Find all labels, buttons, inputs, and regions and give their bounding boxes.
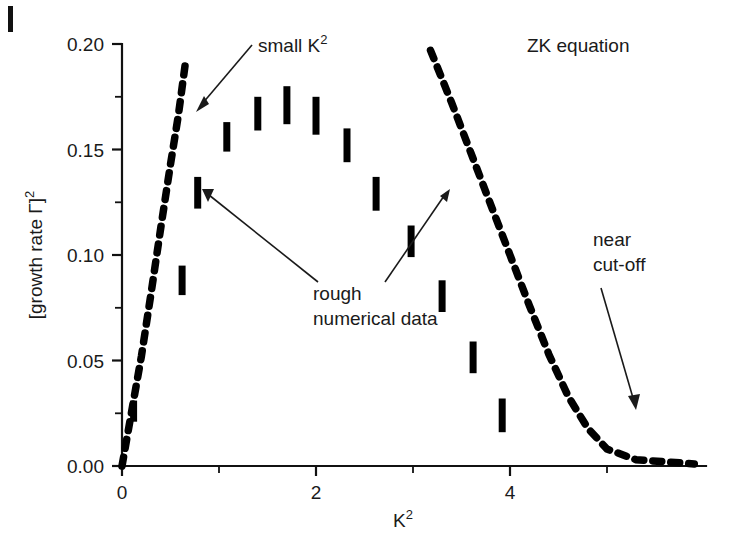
data-marker-group xyxy=(134,86,503,432)
figure-canvas: 0.00 0.05 0.10 0.15 0.20 0 2 4 K2 xyxy=(0,0,736,558)
x-axis-title-sup: 2 xyxy=(406,507,413,522)
rough-data-label-line1: rough xyxy=(313,283,362,304)
zk-equation-label: ZK equation xyxy=(527,35,629,56)
scatter-plot: 0.00 0.05 0.10 0.15 0.20 0 2 4 K2 xyxy=(0,0,736,558)
x-tick-group xyxy=(122,466,607,476)
small-k2-leader-line xyxy=(202,45,252,104)
small-k2-label: small K xyxy=(258,35,321,56)
svg-text:small K2: small K2 xyxy=(258,32,328,56)
y-tick-label: 0.05 xyxy=(67,351,104,372)
x-tick-label: 0 xyxy=(117,482,128,503)
zk-curve-cut-off xyxy=(431,50,695,464)
y-tick-label: 0.15 xyxy=(67,140,104,161)
y-axis-title-sup: 2 xyxy=(22,191,37,198)
rough-data-leader-right xyxy=(385,196,444,282)
y-axis-title-text: [growth rate Γ] xyxy=(25,198,46,319)
cut-off-leader-line xyxy=(601,288,633,398)
x-axis-title: K2 xyxy=(393,507,413,531)
rough-data-label-line2: numerical data xyxy=(313,308,438,329)
annotation-zk-equation: ZK equation xyxy=(527,35,629,56)
cut-off-label-line2: cut-off xyxy=(593,254,646,275)
x-tick-labels: 0 2 4 xyxy=(117,482,516,503)
annotation-rough-numerical-data: rough numerical data xyxy=(202,189,450,329)
annotation-near-cut-off: near cut-off xyxy=(593,229,646,410)
y-axis-title: [growth rate Γ]2 xyxy=(22,191,46,320)
y-tick-label: 0.20 xyxy=(67,34,104,55)
cut-off-arrowhead xyxy=(628,394,640,410)
small-k2-sup: 2 xyxy=(320,32,327,47)
x-axis-title-text: K xyxy=(393,510,406,531)
cut-off-label-line1: near xyxy=(593,229,632,250)
svg-text:[growth rate Γ]2: [growth rate Γ]2 xyxy=(22,191,46,320)
annotation-small-k2: small K2 xyxy=(196,32,328,112)
y-tick-label: 0.10 xyxy=(67,245,104,266)
svg-text:K2: K2 xyxy=(393,507,413,531)
y-tick-labels: 0.00 0.05 0.10 0.15 0.20 xyxy=(67,34,104,477)
y-tick-label: 0.00 xyxy=(67,456,104,477)
x-tick-label: 2 xyxy=(311,482,322,503)
x-tick-label: 4 xyxy=(505,482,516,503)
y-tick-group xyxy=(112,44,122,466)
rough-data-arrowhead-left xyxy=(202,189,214,202)
rough-data-leader-left xyxy=(209,195,318,282)
